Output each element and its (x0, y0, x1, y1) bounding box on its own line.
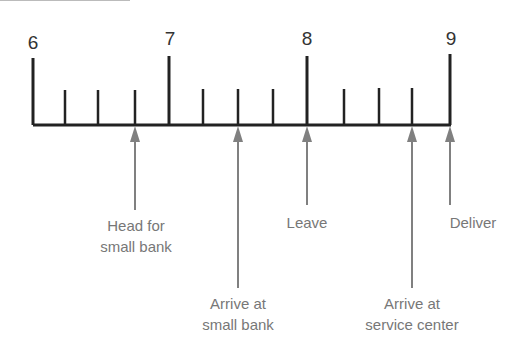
event-label-deliver: Deliver (450, 212, 497, 233)
event-label-line: Deliver (450, 212, 497, 233)
event-label-arrive-small-bank: Arrive at small bank (202, 293, 274, 335)
arrow-head-for-small-bank-icon (130, 126, 140, 210)
event-label-line: Leave (287, 212, 328, 233)
hour-label-7: 7 (165, 28, 176, 50)
event-label-line: Arrive at (202, 293, 274, 314)
event-label-leave: Leave (287, 212, 328, 233)
event-label-head-for-small-bank: Head for small bank (100, 215, 172, 257)
event-label-line: small bank (202, 314, 274, 335)
arrow-leave-icon (302, 126, 312, 205)
event-label-arrive-service-center: Arrive at service center (365, 293, 458, 335)
event-label-line: Head for (100, 215, 172, 236)
arrow-arrive-small-bank-icon (233, 126, 243, 288)
event-label-line: Arrive at (365, 293, 458, 314)
hour-label-8: 8 (302, 28, 313, 50)
arrow-arrive-service-center-icon (407, 126, 417, 288)
event-label-line: small bank (100, 236, 172, 257)
event-label-line: service center (365, 314, 458, 335)
hour-label-9: 9 (446, 28, 457, 50)
arrow-deliver-icon (445, 126, 455, 205)
hour-label-6: 6 (28, 32, 39, 54)
